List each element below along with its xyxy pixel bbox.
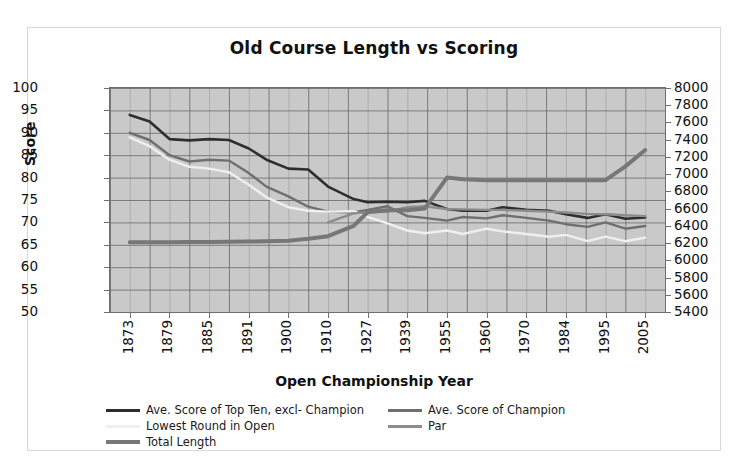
y-axis-right-tick-label: 7600 xyxy=(674,115,708,129)
x-axis-tick-label: 1927 xyxy=(360,320,374,354)
x-axis-tick-mark xyxy=(606,313,607,318)
x-axis-tick-mark xyxy=(288,313,289,318)
x-axis-title: Open Championship Year xyxy=(28,373,720,389)
legend-color-swatch xyxy=(106,425,140,428)
y-axis-right-tick-label: 6400 xyxy=(674,219,708,233)
y-axis-left-tick-label: 70 xyxy=(21,215,38,229)
y-axis-right-tick-mark xyxy=(666,312,671,313)
x-axis-tick-mark xyxy=(249,313,250,318)
y-axis-right-tick-label: 7000 xyxy=(674,167,708,181)
legend-row: Lowest Round in OpenPar xyxy=(106,419,666,435)
x-axis-tick-mark xyxy=(328,313,329,318)
y-axis-left-tick-label: 85 xyxy=(21,148,38,162)
x-axis-tick-label: 1879 xyxy=(161,320,175,354)
y-axis-right-tick-label: 7400 xyxy=(674,133,708,147)
x-axis-tick-mark xyxy=(526,313,527,318)
y-axis-left-tick-label: 50 xyxy=(21,305,38,319)
x-axis-tick-label: 1970 xyxy=(518,320,532,354)
legend-item[interactable]: Lowest Round in Open xyxy=(106,419,275,433)
y-axis-right-tick-label: 7200 xyxy=(674,150,708,164)
chart-legend: Ave. Score of Top Ten, excl- ChampionAve… xyxy=(106,403,666,451)
x-axis-tick-label: 1900 xyxy=(280,320,294,354)
y-axis-right-tick-label: 6600 xyxy=(674,202,708,216)
x-axis-tick-mark xyxy=(169,313,170,318)
x-axis-tick-label: 1955 xyxy=(439,320,453,354)
legend-color-swatch xyxy=(106,409,140,412)
y-axis-right-tick-label: 6800 xyxy=(674,184,708,198)
legend-color-swatch xyxy=(106,440,140,444)
x-axis-tick-label: 1960 xyxy=(479,320,493,354)
y-axis-left-tick-label: 100 xyxy=(12,81,38,95)
x-axis-tick-mark xyxy=(487,313,488,318)
y-axis-right-tick-label: 6000 xyxy=(674,253,708,267)
y-axis-right-tick-mark xyxy=(666,209,671,210)
y-axis-right-tick-mark xyxy=(666,243,671,244)
y-axis-left-tick-label: 90 xyxy=(21,126,38,140)
y-axis-right-tick-label: 6200 xyxy=(674,236,708,250)
x-axis-tick-label: 2005 xyxy=(637,320,651,354)
y-axis-left-tick-label: 75 xyxy=(21,193,38,207)
y-axis-right-tick-label: 5600 xyxy=(674,288,708,302)
x-axis-tick-mark xyxy=(130,313,131,318)
x-axis-tick-label: 1995 xyxy=(598,320,612,354)
x-axis-tick-mark xyxy=(447,313,448,318)
y-axis-left-tick-label: 55 xyxy=(21,283,38,297)
legend-item[interactable]: Ave. Score of Top Ten, excl- Champion xyxy=(106,403,364,417)
y-axis-right-tick-mark xyxy=(666,191,671,192)
x-axis-tick-mark xyxy=(566,313,567,318)
y-axis-right-tick-mark xyxy=(666,174,671,175)
x-axis-tick-label: 1873 xyxy=(122,320,136,354)
y-axis-left-tick-label: 95 xyxy=(21,103,38,117)
plot-lines xyxy=(110,88,665,312)
legend-item[interactable]: Par xyxy=(388,419,446,433)
legend-label: Ave. Score of Top Ten, excl- Champion xyxy=(146,403,364,417)
legend-color-swatch xyxy=(388,425,422,428)
chart-title: Old Course Length vs Scoring xyxy=(28,38,720,58)
legend-label: Par xyxy=(428,419,446,433)
x-axis-tick-mark xyxy=(645,313,646,318)
legend-item[interactable]: Total Length xyxy=(106,435,216,449)
legend-label: Total Length xyxy=(146,435,216,449)
y-axis-right-tick-label: 5400 xyxy=(674,305,708,319)
legend-item[interactable]: Ave. Score of Champion xyxy=(388,403,565,417)
y-axis-left-tick-label: 65 xyxy=(21,238,38,252)
legend-color-swatch xyxy=(388,409,422,412)
chart-container: Old Course Length vs Scoring Score 10095… xyxy=(27,27,721,451)
y-axis-right-tick-mark xyxy=(666,295,671,296)
x-axis-tick-label: 1910 xyxy=(320,320,334,354)
x-axis-tick-mark xyxy=(407,313,408,318)
y-axis-left-tick-label: 80 xyxy=(21,171,38,185)
legend-row: Total Length xyxy=(106,435,666,451)
y-axis-right-tick-label: 7800 xyxy=(674,98,708,112)
y-axis-right-tick-mark xyxy=(666,122,671,123)
y-axis-right-tick-mark xyxy=(666,105,671,106)
y-axis-right-tick-mark xyxy=(666,157,671,158)
x-axis-tick-label: 1891 xyxy=(241,320,255,354)
x-axis-tick-label: 1984 xyxy=(558,320,572,354)
plot-area xyxy=(109,87,666,313)
legend-label: Ave. Score of Champion xyxy=(428,403,565,417)
y-axis-right-tick-mark xyxy=(666,226,671,227)
y-axis-right-tick-mark xyxy=(666,260,671,261)
x-axis-tick-label: 1939 xyxy=(399,320,413,354)
y-axis-left-tick-label: 60 xyxy=(21,260,38,274)
x-axis-tick-label: 1885 xyxy=(201,320,215,354)
x-axis-tick-mark xyxy=(368,313,369,318)
y-axis-right-tick-mark xyxy=(666,88,671,89)
y-axis-right-tick-mark xyxy=(666,278,671,279)
x-axis-tick-mark xyxy=(209,313,210,318)
y-axis-right-tick-label: 8000 xyxy=(674,81,708,95)
y-axis-right-tick-label: 5800 xyxy=(674,271,708,285)
y-axis-right-tick-mark xyxy=(666,140,671,141)
legend-row: Ave. Score of Top Ten, excl- ChampionAve… xyxy=(106,403,666,419)
legend-label: Lowest Round in Open xyxy=(146,419,275,433)
